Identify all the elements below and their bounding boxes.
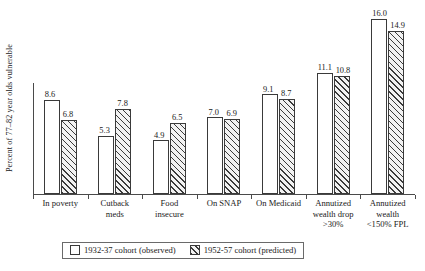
bar-value-label: 8.7	[281, 90, 291, 100]
bar-group-bars: 11.110.8	[306, 14, 361, 194]
bar-predicted: 6.8	[61, 120, 77, 194]
legend-item-observed: 1932-37 cohort (observed)	[70, 245, 176, 255]
legend-item-predicted: 1952-57 cohort (predicted)	[190, 245, 297, 255]
bar-group-bars: 5.37.8	[88, 14, 143, 194]
x-axis-category-line: Food	[142, 198, 197, 209]
bar-value-label: 6.5	[172, 114, 182, 124]
x-axis-category-label: Annutizedwealth<150% FPL	[360, 198, 415, 230]
bar-value-label: 8.6	[45, 91, 55, 101]
bar-group: 5.37.8	[88, 14, 143, 194]
x-axis-category-label: On SNAP	[197, 198, 252, 209]
bar-value-label: 4.9	[154, 132, 164, 142]
bar-group-bars: 4.96.5	[142, 14, 197, 194]
x-axis-category-line: insecure	[142, 209, 197, 220]
bar-value-label: 6.9	[226, 110, 236, 120]
x-axis-category-line: Annutized	[306, 198, 361, 209]
plot-area: 8.66.85.37.84.96.57.06.99.18.711.110.816…	[33, 14, 415, 195]
bar-group-bars: 9.18.7	[251, 14, 306, 194]
bar-predicted: 6.9	[224, 119, 240, 194]
bar-group: 11.110.8	[306, 14, 361, 194]
open-square-swatch	[70, 245, 80, 255]
x-axis-category-label: Foodinsecure	[142, 198, 197, 219]
x-axis-line	[33, 194, 415, 195]
x-axis-category-line: Cutback	[88, 198, 143, 209]
x-axis-category-line: wealth drop	[306, 209, 361, 220]
bar-predicted: 14.9	[388, 31, 404, 194]
bar-predicted: 10.8	[334, 76, 350, 194]
bar-group: 9.18.7	[251, 14, 306, 194]
bar-observed: 11.1	[317, 73, 333, 194]
x-axis-tick	[415, 195, 416, 199]
x-axis-category-line: Annutized	[360, 198, 415, 209]
x-axis-category-label: Cutbackmeds	[88, 198, 143, 219]
legend-label-observed: 1932-37 cohort (observed)	[84, 246, 176, 255]
bar-predicted: 7.8	[115, 109, 131, 194]
x-axis-category-line: On SNAP	[197, 198, 252, 209]
y-axis-title-label: Percent of 77–82 year olds vulnerable	[6, 44, 14, 172]
x-axis-category-line: meds	[88, 209, 143, 220]
bar-observed: 16.0	[371, 19, 387, 194]
bar-observed: 8.6	[44, 100, 60, 194]
bar-value-label: 11.1	[318, 64, 332, 74]
x-axis-category-line: wealth	[360, 209, 415, 220]
chart-legend: 1932-37 cohort (observed) 1952-57 cohort…	[62, 242, 304, 259]
bar-observed: 9.1	[262, 94, 278, 194]
bar-value-label: 6.8	[63, 111, 73, 121]
bar-predicted: 6.5	[170, 123, 186, 194]
x-axis-category-line: >30%	[306, 219, 361, 230]
bar-value-label: 10.8	[336, 67, 351, 77]
bar-value-label: 7.0	[208, 109, 218, 119]
hatched-square-swatch	[190, 245, 200, 255]
x-axis-category-label: On Medicaid	[251, 198, 306, 209]
x-axis-category-line: In poverty	[33, 198, 88, 209]
bar-observed: 7.0	[207, 117, 223, 194]
x-axis-category-label: In poverty	[33, 198, 88, 209]
bar-group: 8.66.8	[33, 14, 88, 194]
bar-predicted: 8.7	[279, 99, 295, 194]
y-axis-title: Percent of 77–82 year olds vulnerable	[0, 20, 20, 196]
bar-value-label: 14.9	[390, 22, 405, 32]
x-axis-category-label: Annutizedwealth drop>30%	[306, 198, 361, 230]
bar-observed: 4.9	[153, 140, 169, 194]
bar-group: 4.96.5	[142, 14, 197, 194]
bar-group: 16.014.9	[360, 14, 415, 194]
bar-group: 7.06.9	[197, 14, 252, 194]
bar-value-label: 7.8	[117, 100, 127, 110]
bar-group-bars: 8.66.8	[33, 14, 88, 194]
bar-observed: 5.3	[98, 136, 114, 194]
bar-value-label: 16.0	[372, 10, 387, 20]
bar-value-label: 9.1	[263, 86, 273, 96]
legend-label-predicted: 1952-57 cohort (predicted)	[204, 246, 297, 255]
bar-group-bars: 7.06.9	[197, 14, 252, 194]
x-axis-category-line: <150% FPL	[360, 219, 415, 230]
bar-chart-figure: Percent of 77–82 year olds vulnerable 8.…	[0, 0, 425, 271]
bar-group-bars: 16.014.9	[360, 14, 415, 194]
x-axis-category-line: On Medicaid	[251, 198, 306, 209]
bar-value-label: 5.3	[99, 127, 109, 137]
